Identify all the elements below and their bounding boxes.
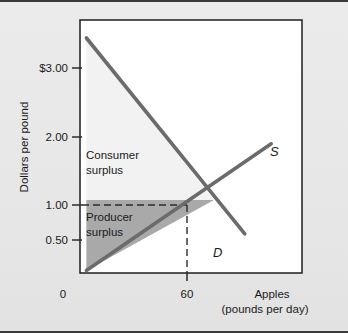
y-tick-label-3: $3.00 [39,62,68,74]
y-tick-label-2: 2.00 [46,131,68,143]
y-tick-label-0-5: 0.50 [46,234,68,246]
x-tick-label-0: 0 [60,288,66,300]
x-axis-title: Apples [254,288,289,300]
y-axis-title: Dollars per pound [18,102,30,193]
consumer-surplus-label-line1: Consumer [86,149,139,161]
x-axis-subtitle: (pounds per day) [222,303,309,315]
producer-surplus-label-line1: Producer [86,211,133,223]
y-tick-label-1: 1.00 [46,199,68,211]
producer-surplus-label-line2: surplus [86,226,123,238]
supply-curve-label: S [270,144,279,159]
consumer-surplus-label-line2: surplus [86,164,123,176]
x-tick-label-60: 60 [181,288,194,300]
figure-container: $3.00 2.00 1.00 0.50 0 60 Apples (pounds… [0,0,348,333]
demand-curve-label: D [213,245,222,260]
surplus-chart: $3.00 2.00 1.00 0.50 0 60 Apples (pounds… [0,0,348,333]
